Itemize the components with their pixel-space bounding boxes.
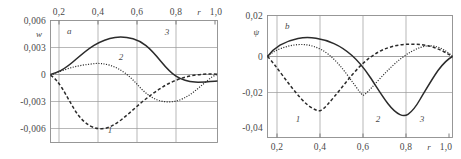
panel-b-svg: 0,2 0,4 0,6 0,8 1,0 r 0,02 0 -0,02 -0,04… — [230, 0, 461, 159]
panel-b-x-ticklabels: 0,2 0,4 0,6 0,8 1,0 r — [271, 142, 453, 152]
xtick-a-3: 0,8 — [170, 7, 183, 17]
xtick-a-2: 0,6 — [131, 7, 144, 17]
xtick-a-4: 1,0 — [210, 7, 223, 17]
curve-a-2 — [51, 63, 218, 101]
xtick-b-2: 0,6 — [357, 142, 370, 152]
ytick-b-3: -0,04 — [242, 123, 263, 133]
panel-a-y-ticklabels: 0,006 0,003 0 -0,003 -0,006 w — [20, 16, 46, 134]
xtick-a-1: 0,4 — [92, 7, 105, 17]
panel-b: 0,2 0,4 0,6 0,8 1,0 r 0,02 0 -0,02 -0,04… — [230, 0, 461, 159]
yaxis-label-b: ψ — [253, 27, 259, 37]
curve-label-b-3: 3 — [419, 114, 425, 124]
curve-label-a-1: 1 — [108, 125, 113, 135]
xtick-b-0: 0,2 — [271, 142, 284, 152]
curve-b-2 — [268, 44, 453, 95]
curve-label-a-2: 2 — [119, 52, 124, 62]
curve-b-1 — [268, 44, 453, 111]
panel-b-y-ticklabels: 0,02 0 -0,02 -0,04 ψ — [242, 11, 263, 133]
xtick-b-3: 0,8 — [400, 142, 413, 152]
curve-b-3 — [268, 38, 453, 116]
panel-label-a: a — [67, 26, 72, 36]
ytick-b-0: 0,02 — [246, 11, 263, 21]
curve-label-b-1: 1 — [296, 114, 301, 124]
xtick-b-4: 1,0 — [440, 142, 453, 152]
ytick-a-4: -0,006 — [20, 124, 46, 134]
panel-label-b: b — [285, 21, 290, 31]
xaxis-label-a: r — [197, 7, 201, 17]
panel-a: 0,2 0,4 0,6 0,8 1,0 r 0,006 0,003 0 -0,0… — [0, 0, 230, 159]
panel-b-curves — [268, 38, 453, 116]
yaxis-label-a: w — [36, 29, 42, 39]
ytick-a-3: -0,003 — [20, 97, 46, 107]
panel-a-x-ticklabels: 0,2 0,4 0,6 0,8 1,0 r — [53, 7, 223, 17]
ytick-a-2: 0 — [41, 70, 46, 80]
ytick-b-1: 0 — [258, 52, 263, 62]
panel-a-svg: 0,2 0,4 0,6 0,8 1,0 r 0,006 0,003 0 -0,0… — [0, 0, 230, 159]
ytick-a-0: 0,006 — [24, 16, 46, 26]
ytick-a-1: 0,003 — [24, 43, 46, 53]
xtick-a-0: 0,2 — [53, 7, 66, 17]
ytick-b-2: -0,02 — [242, 88, 263, 98]
figure-sheet: 0,2 0,4 0,6 0,8 1,0 r 0,006 0,003 0 -0,0… — [0, 0, 461, 159]
panel-a-curves — [51, 37, 218, 129]
curve-label-a-3: 3 — [164, 27, 170, 37]
curve-label-b-2: 2 — [376, 114, 381, 124]
xaxis-label-b: r — [427, 142, 431, 152]
xtick-b-1: 0,4 — [314, 142, 327, 152]
